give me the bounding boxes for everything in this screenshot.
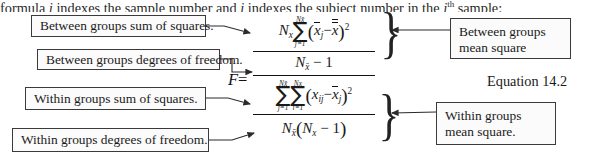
- callout-between-groups-mean-square: Between groups mean square: [450, 18, 571, 59]
- between-groups-sum-of-squares-expression: NxNx̄∑j=1(xj−x)2: [253, 16, 375, 50]
- group-mean-x-bar: x: [332, 86, 339, 102]
- minus-sign: −: [323, 22, 331, 38]
- equation-left-hand-side: F=: [228, 70, 247, 90]
- exponent-two: 2: [348, 86, 353, 96]
- equation-number-label: Equation 14.2: [487, 73, 567, 90]
- brace-within-groups-mean-square: }: [378, 86, 399, 144]
- callout-between-groups-sum-of-squares: Between groups sum of squares.: [31, 15, 206, 37]
- callout-label: Within groups degrees of freedom.: [21, 132, 208, 148]
- caption-mid-2: indexes the subject number in the: [244, 0, 443, 12]
- lower-fraction-bar: [253, 114, 375, 115]
- callout-within-groups-mean-square: Within groups mean square.: [436, 102, 556, 145]
- main-fraction-bar: [253, 75, 375, 76]
- summation-over-i-inner: Nx∑i=1: [291, 80, 306, 112]
- callout-label: Between groups degrees of freedom.: [46, 52, 243, 68]
- wire-wg-ss: [206, 98, 250, 104]
- exponent-two: 2: [345, 22, 350, 32]
- n-subscript-x: x: [312, 127, 316, 137]
- anova-f-ratio-expression: NxNx̄∑j=1(xj−x)2 Nx̄ − 1 Nx̄∑j=1Nx∑i=1(x…: [253, 16, 375, 138]
- minus-one: − 1: [313, 54, 333, 70]
- figure-canvas: formula j indexes the sample number and …: [0, 0, 591, 163]
- summation-over-j-outer: Nx̄∑j=1: [276, 80, 291, 112]
- caption-mid-1: indexes the sample number and: [53, 0, 240, 12]
- variable-f: F: [228, 70, 238, 89]
- summation-lower-limit: j=1: [276, 104, 291, 111]
- callout-within-groups-degrees-of-freedom: Within groups degrees of freedom.: [12, 128, 209, 152]
- between-groups-degrees-of-freedom-expression: Nx̄ − 1: [253, 53, 375, 74]
- close-parenthesis: ): [340, 118, 346, 139]
- wire-wg-df: [209, 133, 254, 140]
- brace-between-groups-mean-square: }: [380, 4, 401, 62]
- minus-one: − 1: [320, 119, 340, 135]
- equals-sign: =: [238, 70, 247, 89]
- caption-prefix: formula: [0, 0, 49, 12]
- n-symbol-outer: N: [282, 119, 292, 135]
- n-symbol-inner: N: [302, 119, 312, 135]
- within-groups-sum-of-squares-expression: Nx̄∑j=1Nx∑i=1(xij−xj)2: [253, 77, 375, 113]
- grand-mean-x-double-bar: x: [332, 19, 339, 38]
- within-groups-degrees-of-freedom-expression: Nx̄(Nx − 1): [253, 116, 375, 138]
- callout-label-line-2: mean square.: [445, 124, 547, 140]
- n-subscript-x-bar: x̄: [305, 62, 309, 72]
- n-symbol: N: [295, 54, 305, 70]
- coefficient-n: N: [279, 22, 289, 38]
- callout-within-groups-sum-of-squares: Within groups sum of squares.: [25, 87, 206, 110]
- summation-lower-limit: j=1: [293, 40, 308, 47]
- callout-between-groups-degrees-of-freedom: Between groups degrees of freedom.: [37, 49, 220, 70]
- callout-label-line-2: mean square: [459, 40, 562, 56]
- figure-caption-text: formula j indexes the sample number and …: [0, 0, 591, 12]
- callout-label-line-1: Between groups: [459, 24, 562, 40]
- upper-fraction-bar: [253, 51, 375, 52]
- summation-lower-limit: i=1: [291, 104, 306, 111]
- caption-suffix: sample:: [454, 0, 502, 12]
- group-mean-x-bar: x: [314, 22, 321, 38]
- callout-label: Within groups sum of squares.: [34, 91, 197, 107]
- callout-label: Between groups sum of squares.: [40, 18, 214, 34]
- callout-label-line-1: Within groups: [445, 108, 547, 124]
- summation-over-j: Nx̄∑j=1: [293, 16, 308, 48]
- minus-sign: −: [324, 86, 332, 102]
